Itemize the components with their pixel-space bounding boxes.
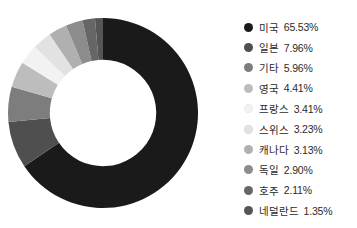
legend-item-value: 2.11% <box>284 184 312 196</box>
legend-item-label: 네덜란드 <box>259 203 299 218</box>
legend-item[interactable]: 미국65.53% <box>244 17 357 37</box>
legend-item-label: 스위스 <box>259 122 289 137</box>
legend-item-value: 3.13% <box>294 144 323 156</box>
legend-swatch-icon <box>244 104 253 113</box>
legend-item[interactable]: 영국4.41% <box>244 78 357 98</box>
legend-swatch-icon <box>244 125 253 134</box>
legend-swatch-icon <box>244 186 253 195</box>
legend-item[interactable]: 일본7.96% <box>244 37 357 57</box>
legend-item-value: 3.41% <box>294 103 323 115</box>
legend-item[interactable]: 호주2.11% <box>244 180 357 200</box>
legend-swatch-icon <box>244 84 253 93</box>
legend-item[interactable]: 캐나다3.13% <box>244 139 357 159</box>
legend-item-value: 4.41% <box>284 82 313 94</box>
legend-swatch-icon <box>244 165 253 174</box>
legend-swatch-icon <box>244 43 253 52</box>
legend-swatch-icon <box>244 145 253 154</box>
legend-item-label: 일본 <box>259 40 279 55</box>
legend-item-label: 프랑스 <box>259 101 289 116</box>
donut-chart <box>6 16 200 210</box>
chart-legend: 미국65.53%일본7.96%기타5.96%영국4.41%프랑스3.41%스위스… <box>244 17 357 228</box>
legend-item-label: 독일 <box>259 162 279 177</box>
legend-item-label: 호주 <box>259 183 279 198</box>
legend-item-value: 65.53% <box>284 21 318 33</box>
legend-item-label: 영국 <box>259 81 279 96</box>
legend-item[interactable]: 네덜란드1.35% <box>244 201 357 221</box>
legend-item[interactable]: 독일2.90% <box>244 160 357 180</box>
legend-item-value: 3.23% <box>294 123 323 135</box>
legend-item[interactable]: 스위스3.23% <box>244 119 357 139</box>
donut-svg <box>6 16 200 210</box>
legend-item-value: 1.35% <box>304 205 333 217</box>
legend-item-value: 5.96% <box>284 62 313 74</box>
legend-item[interactable]: 프랑스3.41% <box>244 99 357 119</box>
legend-item-label: 캐나다 <box>259 142 289 157</box>
legend-item-label: 기타 <box>259 60 279 75</box>
chart-title <box>0 0 357 3</box>
legend-item-value: 7.96% <box>284 42 313 54</box>
legend-swatch-icon <box>244 206 253 215</box>
legend-item-value: 2.90% <box>284 164 313 176</box>
legend-item-label: 미국 <box>259 20 279 35</box>
donut-chart-figure: 미국65.53%일본7.96%기타5.96%영국4.41%프랑스3.41%스위스… <box>0 0 357 228</box>
legend-swatch-icon <box>244 23 253 32</box>
legend-swatch-icon <box>244 63 253 72</box>
legend-item[interactable]: 기타5.96% <box>244 58 357 78</box>
